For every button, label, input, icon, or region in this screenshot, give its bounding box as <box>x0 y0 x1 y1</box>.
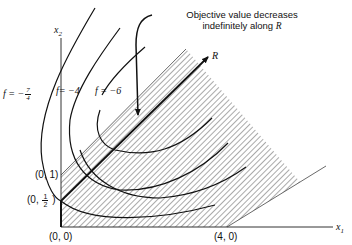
point-label-4-0: (4, 0) <box>214 232 237 242</box>
ray-r-label: R <box>212 51 218 61</box>
point-label-0-half: (0, 12 ) <box>27 193 55 208</box>
x1-axis-label: x1 <box>336 222 344 235</box>
contour-label-f-neg-7-4: f = −74 <box>3 87 32 102</box>
point-label-0-1: (0, 1) <box>35 170 58 180</box>
lp-unbounded-figure <box>0 0 352 245</box>
point-label-0-0: (0, 0) <box>49 232 72 242</box>
contour-label-f-neg-4: f= −4 <box>56 86 80 96</box>
annotation-line2: indefinitely along R <box>152 20 332 32</box>
annotation-line1: Objective value decreases <box>152 9 332 20</box>
contour-label-f-neg-6: f = −6 <box>95 86 121 96</box>
feasible-region <box>61 49 300 227</box>
x2-axis-label: x2 <box>54 25 62 38</box>
annotation-text: Objective value decreases indefinitely a… <box>152 9 332 32</box>
